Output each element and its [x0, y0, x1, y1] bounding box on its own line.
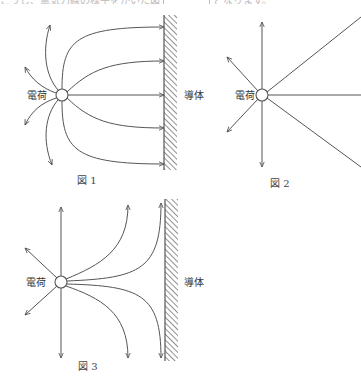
- charge-label: 電荷: [26, 277, 46, 288]
- charge-circle: [56, 89, 68, 101]
- charge-label: 電荷: [235, 90, 255, 101]
- conductor-label: 導体: [184, 89, 204, 101]
- conductor-wall: [164, 15, 177, 170]
- figure-caption: 図 1: [77, 175, 97, 186]
- field-line: [267, 98, 361, 167]
- field-line: [267, 17, 361, 92]
- conductor-label: 導体: [184, 276, 204, 288]
- field-line: [67, 61, 164, 92]
- field-line: [46, 100, 58, 165]
- figure-1: [25, 15, 177, 170]
- field-line: [227, 99, 258, 132]
- field-line: [62, 101, 164, 164]
- charge-label: 電荷: [27, 90, 47, 101]
- figure-caption: 図 3: [78, 361, 98, 372]
- field-line: [67, 284, 161, 358]
- charge-circle: [256, 89, 268, 101]
- field-line: [25, 248, 57, 278]
- figure-caption: 図 2: [270, 178, 290, 189]
- field-line: [227, 57, 258, 91]
- field-line: [66, 205, 128, 279]
- field-line: [25, 286, 57, 315]
- field-line: [67, 203, 161, 281]
- field-line: [25, 98, 56, 125]
- field-line: [67, 98, 164, 128]
- field-line: [66, 286, 128, 358]
- figure-3: [25, 199, 178, 361]
- field-line: [62, 27, 164, 89]
- field-line: [46, 25, 58, 90]
- conductor-wall: [165, 199, 178, 361]
- charge-circle: [55, 276, 67, 288]
